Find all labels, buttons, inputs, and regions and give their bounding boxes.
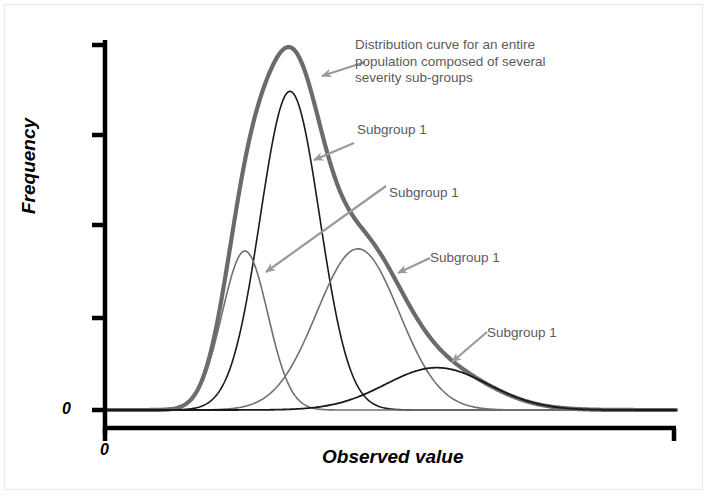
annotation-subgroup-1: Subgroup 1 (357, 122, 427, 139)
annotation-main-curve: Distribution curve for an entire populat… (355, 37, 585, 87)
x-axis-title: Observed value (322, 446, 464, 468)
x-axis-zero-label: 0 (100, 441, 109, 459)
curve-subgroup-1 (105, 91, 676, 410)
arrow-sub3-icon (398, 258, 430, 273)
annotation-subgroup-2: Subgroup 1 (389, 185, 459, 202)
annotation-subgroup-3: Subgroup 1 (430, 250, 500, 267)
axes-group (92, 40, 676, 441)
arrow-sub1-icon (314, 143, 354, 160)
y-axis-zero-label: 0 (62, 400, 71, 418)
arrow-sub4-icon (452, 332, 487, 362)
y-axis-title: Frequency (18, 118, 40, 214)
chart-figure: Frequency Observed value 0 0 Distributio… (0, 0, 709, 496)
annotation-subgroup-4: Subgroup 1 (487, 325, 557, 342)
curve-envelope (105, 47, 676, 410)
curves-group (105, 47, 676, 410)
curve-subgroup-4 (105, 368, 676, 410)
